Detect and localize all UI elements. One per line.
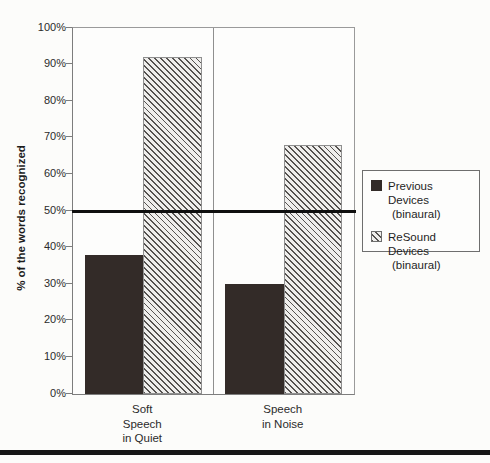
legend-item-resound-devices: ReSound Devices (binaural)	[371, 230, 473, 272]
bar-previous-devices	[225, 284, 284, 394]
y-tick	[66, 319, 72, 320]
solid-swatch-icon	[371, 180, 382, 191]
bar-resound-devices	[143, 57, 202, 394]
chart-page: 0%10%20%30%40%50%60%70%80%90%100% % of t…	[0, 0, 490, 463]
legend-item-previous-devices: Previous Devices (binaural)	[371, 179, 473, 221]
y-tick-label: 90%	[18, 58, 66, 69]
y-tick-label: 100%	[18, 22, 66, 33]
y-tick	[66, 393, 72, 394]
hatched-swatch-icon	[371, 231, 382, 242]
y-tick-label: 10%	[18, 351, 66, 362]
y-tick	[66, 136, 72, 137]
y-tick	[66, 100, 72, 101]
y-tick-label: 20%	[18, 314, 66, 325]
y-tick	[66, 210, 72, 211]
y-tick	[66, 283, 72, 284]
bar-resound-devices	[284, 145, 343, 394]
y-tick	[66, 173, 72, 174]
bottom-rule	[0, 450, 490, 455]
y-axis-title: % of the words recognized	[15, 145, 27, 291]
plot-area	[72, 27, 355, 395]
legend-sublabel: (binaural)	[388, 207, 473, 221]
y-tick	[66, 356, 72, 357]
legend-label: Previous Devices	[388, 179, 473, 207]
y-tick	[66, 27, 72, 28]
category-label: SoftSpeechin Quiet	[72, 402, 213, 446]
y-tick	[66, 246, 72, 247]
y-tick	[66, 63, 72, 64]
legend-label: ReSound Devices	[388, 230, 473, 258]
y-tick-label: 0%	[18, 388, 66, 399]
y-tick-label: 80%	[18, 95, 66, 106]
legend: Previous Devices (binaural) ReSound Devi…	[362, 170, 480, 252]
reference-line-50pct	[72, 210, 356, 213]
y-tick-label: 70%	[18, 131, 66, 142]
category-label: Speechin Noise	[213, 402, 354, 431]
legend-sublabel: (binaural)	[388, 258, 473, 272]
bar-previous-devices	[85, 255, 144, 394]
